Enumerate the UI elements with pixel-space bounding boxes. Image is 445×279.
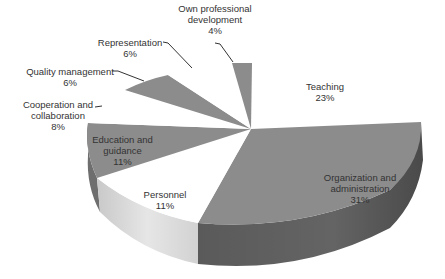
- label-pct: 8%: [18, 121, 98, 132]
- pie-chart: [0, 0, 445, 279]
- label-text: Own professional: [170, 3, 260, 14]
- label-representation: Representation 6%: [95, 37, 165, 59]
- label-pct: 11%: [130, 200, 200, 211]
- label-teaching: Teaching 23%: [295, 81, 355, 103]
- label-personnel: Personnel 11%: [130, 189, 200, 211]
- leader-line-quality: [112, 71, 144, 81]
- label-pct: 6%: [95, 48, 165, 59]
- label-cooperation: Cooperation and collaboration 8%: [18, 99, 98, 132]
- label-text: development: [170, 14, 260, 25]
- label-text: Personnel: [130, 189, 200, 200]
- label-pct: 23%: [295, 92, 355, 103]
- label-text: Cooperation and: [18, 99, 98, 110]
- label-education: Education and guidance 11%: [85, 134, 160, 167]
- label-text: Education and: [85, 134, 160, 145]
- label-quality: Quality management 6%: [25, 66, 115, 88]
- label-organization: Organization and administration 31%: [310, 172, 410, 205]
- label-own-development: Own professional development 4%: [170, 3, 260, 36]
- label-text: administration: [310, 183, 410, 194]
- label-pct: 4%: [170, 25, 260, 36]
- label-pct: 11%: [85, 156, 160, 167]
- label-text: guidance: [85, 145, 160, 156]
- label-text: collaboration: [18, 110, 98, 121]
- label-pct: 31%: [310, 194, 410, 205]
- label-text: Teaching: [295, 81, 355, 92]
- label-text: Organization and: [310, 172, 410, 183]
- label-text: Quality management: [25, 66, 115, 77]
- label-pct: 6%: [25, 77, 115, 88]
- leader-line-representation: [163, 42, 192, 68]
- label-text: Representation: [95, 37, 165, 48]
- leader-line-own: [215, 43, 233, 62]
